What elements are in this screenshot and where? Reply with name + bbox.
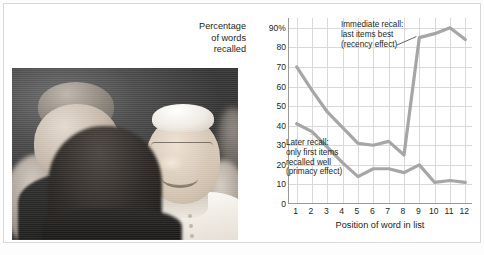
line-chart: 0102030405060708090% 123456789101112 Pos… — [264, 18, 472, 218]
x-tick-label: 10 — [429, 206, 439, 216]
x-tick-label: 11 — [445, 206, 454, 216]
photo-grain-overlay — [12, 68, 238, 240]
x-axis-title: Position of word in list — [288, 220, 472, 230]
x-tick-label: 1 — [293, 206, 298, 216]
y-axis-title-line-1: Percentage — [150, 21, 246, 33]
y-axis-title: Percentage of words recalled — [150, 21, 246, 56]
x-tick-label: 12 — [460, 206, 470, 216]
x-tick-label: 7 — [385, 206, 390, 216]
annotation-immediate-line-3: (recency effect) — [341, 40, 403, 50]
x-tick-label: 6 — [370, 206, 375, 216]
y-tick-label: 50 — [262, 101, 286, 111]
x-tick-label: 2 — [309, 206, 314, 216]
y-axis-title-line-2: of words — [150, 33, 246, 45]
y-tick-label: 0 — [262, 199, 286, 209]
y-axis-tick-labels: 0102030405060708090% — [260, 18, 286, 204]
x-tick-label: 4 — [339, 206, 344, 216]
y-tick-label: 20 — [262, 160, 286, 170]
photograph — [12, 68, 238, 240]
annotation-immediate-line-1: Immediate recall: — [341, 20, 403, 30]
annotation-later-line-4: (primacy effect) — [286, 167, 342, 177]
annotation-later-line-2: only first items — [286, 148, 342, 158]
x-tick-label: 9 — [416, 206, 421, 216]
y-tick-label: 80 — [262, 42, 286, 52]
figure-container: Vincenzo Pinto/AFP/Getty Images Percenta… — [0, 0, 484, 255]
y-tick-label: 60 — [262, 82, 286, 92]
y-tick-label: 10 — [262, 179, 286, 189]
y-axis-title-line-3: recalled — [150, 44, 246, 56]
y-tick-label: 70 — [262, 62, 286, 72]
annotation-later-recall: Later recall: only first items recalled … — [286, 138, 342, 177]
annotation-immediate-recall: Immediate recall: last items best (recen… — [341, 20, 403, 49]
annotation-later-line-1: Later recall: — [286, 138, 342, 148]
annotation-immediate-line-2: last items best — [341, 30, 403, 40]
annotation-later-line-3: recalled well — [286, 158, 342, 168]
x-tick-label: 8 — [401, 206, 406, 216]
y-tick-label: 40 — [262, 121, 286, 131]
x-tick-label: 3 — [324, 206, 329, 216]
x-axis-tick-labels: 123456789101112 — [288, 206, 472, 220]
y-tick-label: 30 — [262, 140, 286, 150]
x-tick-label: 5 — [355, 206, 360, 216]
y-tick-label: 90% — [262, 23, 286, 33]
